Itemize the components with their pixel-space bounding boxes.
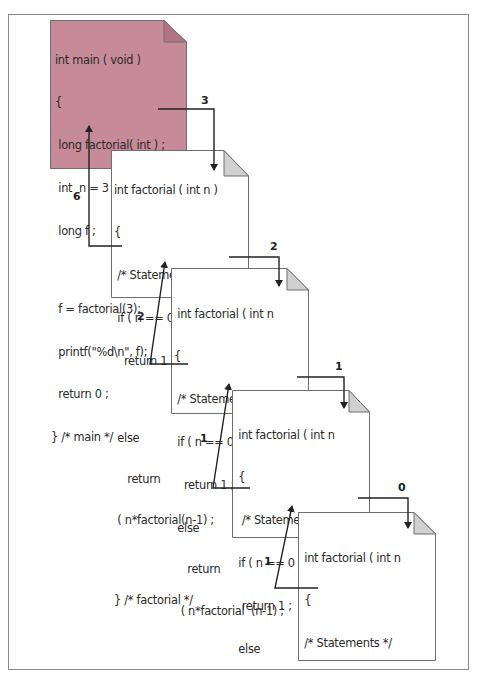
return-label-1a: 1 [200, 432, 208, 445]
call-label-3: 3 [201, 94, 209, 107]
call-label-0: 0 [398, 481, 406, 494]
code-line: int factorial ( int n ) [114, 183, 218, 197]
factorial-call-card-n0: int factorial ( int n { /* Statements */… [298, 512, 436, 661]
call-label-1: 1 [335, 360, 343, 373]
call-label-2: 2 [270, 240, 278, 253]
code-line: int factorial ( int n [174, 307, 284, 321]
factorial-code: int factorial ( int n { /* Statements */… [301, 522, 418, 678]
main-function-card: int main ( void ) { long factorial( int … [50, 20, 187, 169]
code-line: { [301, 593, 418, 607]
return-label-1b: 1 [264, 555, 272, 568]
code-line: { [235, 470, 345, 484]
code-line: int factorial ( int n [301, 551, 418, 565]
code-line: /* Statements */ [301, 636, 418, 650]
code-line: { [114, 225, 218, 239]
return-label-2: 2 [137, 310, 145, 323]
code-line: { [55, 95, 165, 109]
return-label-6: 6 [73, 190, 81, 203]
code-line: { [174, 349, 284, 363]
code-line: int main ( void ) [55, 53, 165, 67]
code-line: int factorial ( int n [235, 428, 345, 442]
